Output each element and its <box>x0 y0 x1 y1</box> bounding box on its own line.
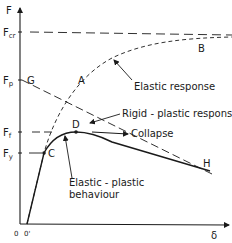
collapse-arrow <box>92 132 128 134</box>
point-g-label: G <box>27 75 35 86</box>
rigid-plastic-leader <box>90 114 120 123</box>
fcr-label: Fcr <box>3 27 16 40</box>
x-axis <box>20 224 229 225</box>
elastic-response-leader <box>114 60 132 80</box>
x-axis-label: δ <box>211 230 217 241</box>
fcr-asymptote-line <box>30 32 232 35</box>
point-d-marker <box>74 130 78 134</box>
load-deflection-diagram: F δ 0 0' Fcr Fp Ff Fy G A B C D H Elasti… <box>0 0 232 243</box>
ff-label: Ff <box>3 127 12 140</box>
point-c-marker <box>42 151 46 155</box>
elastic-plastic-text-line1: Elastic - plastic <box>69 177 144 188</box>
point-d-label: D <box>72 119 80 130</box>
elastic-plastic-text-line2: behaviour <box>69 189 120 200</box>
origin-shift-label: 0' <box>24 230 30 238</box>
rigid-plastic-response-text: Rigid - plastic response <box>122 108 232 119</box>
elastic-plastic-leader <box>65 136 72 178</box>
elastic-response-curve <box>27 37 232 224</box>
rigid-plastic-line <box>22 80 212 174</box>
point-c-label: C <box>48 148 55 159</box>
point-h-label: H <box>203 158 211 169</box>
elastic-response-text: Elastic response <box>134 81 215 92</box>
origin-label: 0 <box>14 230 18 238</box>
collapse-text: Collapse <box>131 128 174 139</box>
point-b-label: B <box>198 43 205 54</box>
fy-label: Fy <box>3 148 13 161</box>
fp-label: Fp <box>3 75 14 88</box>
point-a-label: A <box>78 75 85 86</box>
y-axis-label: F <box>6 5 12 16</box>
